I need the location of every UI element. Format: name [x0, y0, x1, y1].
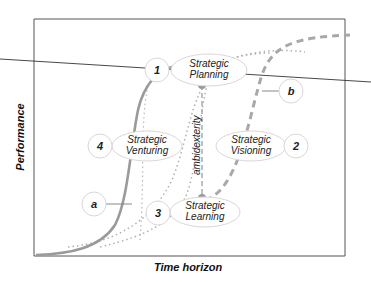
label-a-text: a	[91, 198, 97, 210]
node-4-line1: Strategic	[127, 134, 166, 145]
node-1-number: 1	[154, 64, 160, 76]
node-strategic-venturing: 4 Strategic Venturing	[88, 131, 182, 161]
node-2-number: 2	[292, 140, 299, 152]
node-2-line2: Visioning	[231, 145, 272, 156]
ambidexterity-label: ambidexterity	[191, 115, 202, 175]
node-2-line1: Strategic	[231, 134, 270, 145]
node-strategic-planning: 1 Strategic Planning	[145, 54, 247, 86]
node-4-number: 4	[96, 140, 103, 152]
node-1-line2: Planning	[190, 69, 229, 80]
node-strategic-learning: 3 Strategic Learning	[146, 197, 240, 227]
y-axis-label: Performance	[14, 103, 26, 170]
x-axis-label: Time horizon	[154, 261, 223, 273]
node-3-number: 3	[155, 207, 161, 219]
node-3-line2: Learning	[186, 211, 225, 222]
performance-diagram: ambidexterity 1 Strategic Planning 4 Str…	[0, 0, 371, 282]
node-4-line2: Venturing	[126, 145, 169, 156]
label-b-text: b	[288, 85, 295, 97]
curve-label-b: b	[262, 79, 303, 103]
node-1-line1: Strategic	[189, 58, 228, 69]
node-3-line1: Strategic	[185, 200, 224, 211]
node-strategic-visioning: 2 Strategic Visioning	[216, 131, 308, 161]
